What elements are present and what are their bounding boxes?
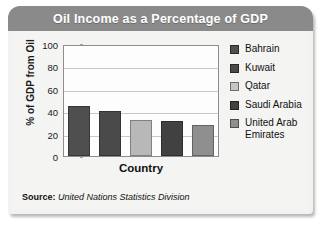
chart-title-bar: Oil Income as a Percentage of GDP: [8, 6, 313, 31]
legend-label: Qatar: [245, 80, 270, 92]
y-tick-label: 100: [32, 40, 58, 51]
bar-bahrain: [68, 106, 90, 156]
legend-item: Qatar: [230, 80, 313, 92]
chart-title: Oil Income as a Percentage of GDP: [53, 12, 268, 26]
bar-saudi-arabia: [161, 121, 183, 156]
y-tick-label: 20: [32, 129, 58, 140]
y-tick-label: 60: [32, 84, 58, 95]
legend-swatch-icon: [230, 82, 239, 91]
legend-item: Bahrain: [230, 43, 313, 55]
legend-label: Saudi Arabia: [245, 99, 302, 111]
bar-series: [64, 46, 218, 156]
plot-area-wrapper: % of GDP from Oil 100806040200 Country: [12, 31, 224, 183]
legend-swatch-icon: [230, 45, 239, 54]
source-value: United Nations Statistics Division: [58, 192, 190, 202]
bar-kuwait: [99, 111, 121, 156]
legend-swatch-icon: [230, 101, 239, 110]
legend-label: United Arab Emirates: [245, 117, 313, 140]
y-tick-label: 40: [32, 107, 58, 118]
bar-qatar: [130, 120, 152, 156]
chart-card: Oil Income as a Percentage of GDP % of G…: [8, 6, 313, 214]
legend-label: Bahrain: [245, 43, 279, 55]
plot-frame: [63, 45, 219, 157]
chart-body: % of GDP from Oil 100806040200 Country B…: [12, 31, 309, 210]
y-tick-label: 80: [32, 62, 58, 73]
legend-swatch-icon: [230, 64, 239, 73]
source-note: Source: United Nations Statistics Divisi…: [22, 192, 190, 202]
y-axis-ticks: 100806040200: [32, 45, 58, 157]
bar-united-arab-emirates: [192, 125, 214, 156]
x-axis-label: Country: [63, 162, 219, 174]
legend-label: Kuwait: [245, 62, 275, 74]
chart-legend: BahrainKuwaitQatarSaudi ArabiaUnited Ara…: [230, 43, 313, 147]
legend-swatch-icon: [230, 119, 239, 128]
legend-item: United Arab Emirates: [230, 117, 313, 140]
legend-item: Kuwait: [230, 62, 313, 74]
legend-item: Saudi Arabia: [230, 99, 313, 111]
y-tick-label: 0: [32, 152, 58, 163]
source-label: Source:: [22, 192, 56, 202]
